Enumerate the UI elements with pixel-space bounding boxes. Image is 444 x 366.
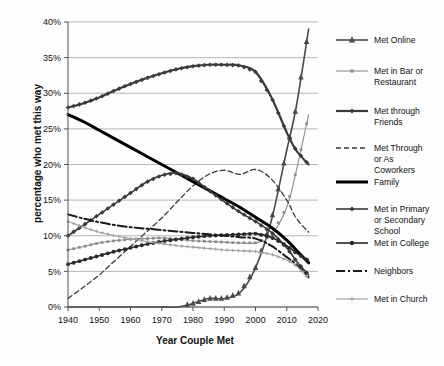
data-point-marker [83, 226, 86, 229]
data-point-marker [94, 255, 98, 259]
legend-label: Met in Primary [374, 204, 430, 214]
data-point-marker [129, 246, 133, 250]
data-point-marker [95, 230, 98, 233]
legend-label: Met in Bar or [374, 66, 423, 76]
data-point-marker [180, 237, 184, 241]
data-point-marker [248, 249, 251, 252]
x-tick-label: 2010 [277, 315, 297, 325]
legend-item[interactable]: Met in Bar or [336, 66, 423, 76]
data-point-marker [134, 245, 138, 249]
data-point-marker [83, 258, 87, 262]
legend-item[interactable]: Met through [336, 106, 420, 116]
legend-item[interactable]: or As [374, 154, 394, 164]
data-point-marker [242, 232, 246, 236]
data-point-marker [174, 67, 179, 72]
legend-item[interactable]: Restaurant [374, 77, 417, 87]
legend-label: Met in College [374, 238, 429, 248]
data-point-marker [299, 254, 303, 258]
series-met-in-college [66, 232, 309, 267]
data-point-marker [192, 239, 195, 242]
data-point-marker [237, 241, 240, 244]
data-point-marker [298, 74, 304, 80]
data-point-marker [106, 232, 109, 235]
data-point-marker [208, 62, 213, 67]
data-point-marker [72, 222, 75, 225]
data-point-marker [191, 64, 196, 69]
data-point-marker [95, 242, 98, 245]
data-point-marker [350, 241, 354, 245]
legend-item[interactable]: Coworkers [374, 165, 415, 175]
data-point-marker [152, 237, 155, 240]
x-tick-labels: 194019501960197019801990200020102020 [58, 307, 328, 325]
data-point-marker [300, 148, 303, 151]
data-point-marker [349, 206, 354, 211]
data-point-marker [265, 252, 268, 255]
data-point-marker [209, 240, 212, 243]
data-point-marker [101, 241, 104, 244]
y-tick-label: 10% [43, 231, 61, 241]
y-tick-label: 0% [48, 302, 61, 312]
data-point-marker [259, 233, 263, 237]
legend-item[interactable]: Met Online [336, 35, 416, 45]
series-met-online [68, 29, 309, 307]
series-line [68, 29, 309, 307]
y-tick-label: 25% [43, 124, 61, 134]
legend-item[interactable]: Met in Church [336, 294, 428, 304]
data-point-marker [248, 242, 251, 245]
data-point-marker [349, 108, 354, 113]
data-point-marker [100, 231, 103, 234]
legend-item[interactable]: or Secondary [374, 215, 426, 225]
data-point-marker [162, 172, 167, 177]
series-neighbors [68, 214, 309, 277]
data-point-marker [163, 242, 166, 245]
x-tick-label: 2020 [308, 315, 328, 325]
data-point-marker [270, 212, 276, 218]
data-point-marker [208, 247, 211, 250]
legend-label: School [374, 226, 400, 236]
legend-item[interactable]: Met in College [336, 238, 429, 248]
x-tick-label: 1980 [183, 315, 203, 325]
data-point-marker [237, 249, 240, 252]
data-point-marker [230, 292, 236, 298]
data-point-marker [288, 246, 292, 250]
series-met-in-bar-or-restaurant [67, 115, 309, 252]
data-point-marker [350, 297, 354, 301]
legend-item[interactable]: Met Through [336, 143, 423, 153]
data-point-marker [169, 243, 172, 246]
data-point-marker [174, 244, 177, 247]
data-point-marker [163, 237, 166, 240]
legend-label: Coworkers [374, 165, 415, 175]
legend-item[interactable]: Neighbors [336, 266, 413, 276]
data-point-marker [100, 253, 104, 257]
line-chart-plot: 0%5%10%15%20%25%30%35%40% 19401950196019… [0, 0, 444, 366]
data-point-marker [248, 232, 252, 236]
data-point-marker [231, 241, 234, 244]
legend-item[interactable]: Met in Primary [336, 204, 430, 214]
data-point-marker [254, 232, 258, 236]
x-tick-label: 2000 [245, 315, 265, 325]
data-point-marker [111, 250, 115, 254]
legend-item[interactable]: School [374, 226, 400, 236]
data-point-marker [305, 257, 309, 261]
y-tick-label: 20% [43, 160, 61, 170]
data-point-marker [265, 234, 269, 238]
data-point-marker [350, 69, 353, 72]
data-point-marker [191, 245, 194, 248]
data-point-marker [84, 245, 87, 248]
data-point-marker [168, 238, 172, 242]
data-point-marker [77, 259, 81, 263]
data-point-marker [197, 240, 200, 243]
data-point-marker [236, 63, 241, 68]
data-point-marker [185, 236, 189, 240]
y-tick-label: 5% [48, 267, 61, 277]
data-point-marker [123, 247, 127, 251]
legend-item[interactable]: Friends [374, 117, 403, 127]
x-tick-label: 1950 [89, 315, 109, 325]
data-point-marker [106, 251, 110, 255]
data-point-marker [112, 240, 115, 243]
data-point-marker [276, 239, 280, 243]
data-point-marker [179, 66, 184, 71]
data-point-marker [117, 248, 121, 252]
data-point-marker [197, 246, 200, 249]
legend-item[interactable]: Family [336, 177, 400, 187]
